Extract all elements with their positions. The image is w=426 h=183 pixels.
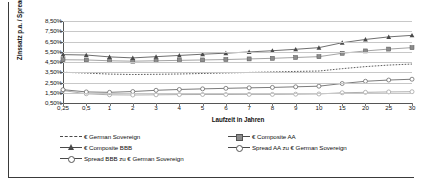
document-rule-left	[8, 2, 9, 178]
x-tick-mark	[342, 103, 343, 106]
data-point-marker	[387, 78, 391, 82]
legend-item: € Composite AA	[228, 131, 296, 141]
open-circle-icon	[228, 142, 250, 152]
data-point-marker	[270, 56, 274, 60]
x-tick-mark	[226, 103, 227, 106]
filled-square-icon	[228, 131, 250, 141]
legend-label: € German Sovereign	[84, 133, 140, 140]
gridline	[63, 52, 412, 53]
data-point-marker	[410, 77, 414, 81]
data-point-marker	[317, 55, 321, 59]
data-point-marker	[201, 87, 205, 91]
x-tick-mark	[203, 103, 204, 106]
gridline	[63, 93, 412, 94]
gridline	[63, 21, 412, 22]
data-point-marker	[177, 87, 181, 91]
gridline	[63, 31, 412, 32]
gridline	[63, 62, 412, 63]
dashed-line-icon	[60, 131, 82, 141]
gridline	[63, 72, 412, 73]
legend-item: € German Sovereign	[60, 131, 140, 141]
legend-label: € Composite BBB	[84, 144, 132, 151]
gridline	[63, 42, 412, 43]
data-point-marker	[224, 58, 228, 62]
data-point-marker	[294, 85, 298, 89]
x-tick-mark	[389, 103, 390, 106]
x-tick-mark	[110, 103, 111, 106]
plot-area	[63, 21, 412, 103]
x-tick-mark	[412, 103, 413, 106]
data-point-marker	[247, 57, 251, 61]
x-tick-mark	[133, 103, 134, 106]
data-point-marker	[270, 85, 274, 89]
y-tick-mark	[60, 52, 63, 53]
x-tick-mark	[296, 103, 297, 106]
x-tick-mark	[86, 103, 87, 106]
y-axis-tick-labels: 8,50%7,50%6,50%5,50%4,50%3,50%2,50%1,50%…	[18, 14, 62, 110]
x-axis-title: Laufzeit in Jahren	[63, 116, 413, 123]
x-tick-mark	[365, 103, 366, 106]
x-axis-tick-labels: 0,250,51234567891015202530	[63, 105, 413, 115]
data-point-marker	[294, 55, 298, 59]
filled-triangle-icon	[60, 142, 82, 152]
legend-label: Spread AA zu € German Sovereign	[252, 144, 347, 151]
data-point-marker	[61, 88, 65, 92]
data-point-marker	[224, 86, 228, 90]
x-tick-mark	[179, 103, 180, 106]
chart-page: Zinssatz p.a. / Spread 8,50%7,50%6,50%5,…	[0, 0, 426, 183]
series-line	[63, 35, 412, 58]
x-tick-mark	[249, 103, 250, 106]
data-point-marker	[247, 86, 251, 90]
data-point-marker	[154, 88, 158, 92]
series-line	[63, 48, 412, 62]
y-tick-mark	[60, 93, 63, 94]
x-tick-mark	[272, 103, 273, 106]
legend-item: Spread BBB zu € German Sovereign	[60, 153, 184, 163]
y-tick-mark	[60, 21, 63, 22]
x-tick-mark	[63, 103, 64, 106]
y-tick-mark	[60, 62, 63, 63]
y-tick-mark	[60, 72, 63, 73]
x-tick-mark	[319, 103, 320, 106]
legend-item: Spread AA zu € German Sovereign	[228, 142, 347, 152]
document-rule-bottom	[8, 177, 414, 178]
x-axis-line	[63, 103, 413, 104]
gridline	[63, 83, 412, 84]
series-line	[63, 79, 412, 92]
y-tick-mark	[60, 42, 63, 43]
legend-label: Spread BBB zu € German Sovereign	[84, 155, 184, 162]
chart-legend: € German Sovereign€ Composite AA€ Compos…	[60, 131, 380, 163]
y-tick-mark	[60, 83, 63, 84]
y-tick-mark	[60, 31, 63, 32]
data-point-marker	[387, 47, 391, 51]
data-point-marker	[317, 84, 321, 88]
legend-item: € Composite BBB	[60, 142, 132, 152]
x-tick-mark	[156, 103, 157, 106]
legend-label: € Composite AA	[252, 133, 296, 140]
open-circle-icon	[60, 153, 82, 163]
data-point-marker	[410, 46, 414, 50]
